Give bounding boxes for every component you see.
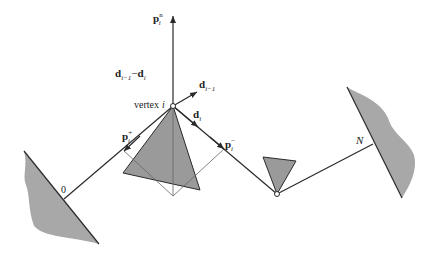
left-wall (24, 151, 99, 244)
label-start-0: 0 (61, 184, 66, 195)
chain-diagram: pni di−1−di di−1 vertexi di p+i p−i 0 N (0, 0, 437, 256)
link-triangle-next (263, 157, 296, 194)
chain-segments (64, 106, 373, 199)
next-joint (275, 192, 280, 197)
label-end-N: N (355, 134, 364, 146)
label-p-n: pni (153, 11, 163, 27)
label-d-prev: di−1 (199, 78, 215, 93)
label-d-diff: di−1−di (115, 67, 146, 82)
vertex-i-joint (171, 104, 176, 109)
label-d-i: di (193, 108, 201, 123)
label-vertex-i: vertexi (134, 99, 165, 110)
d-prev-arrow (173, 92, 197, 106)
p-minus-arrow (210, 137, 224, 149)
